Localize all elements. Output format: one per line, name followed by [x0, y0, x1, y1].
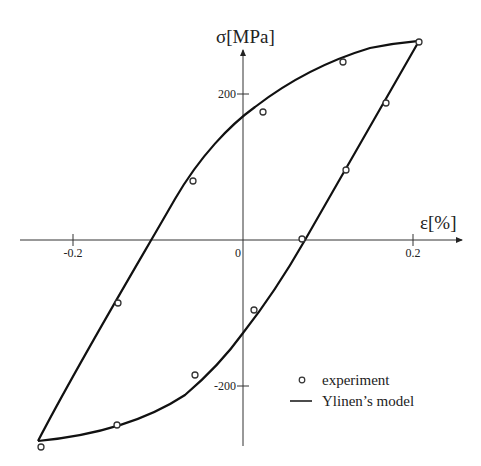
data-point: [192, 372, 198, 378]
data-point: [299, 236, 305, 242]
data-point: [38, 444, 44, 450]
y-tick-label: -200: [214, 379, 236, 393]
data-point: [114, 422, 120, 428]
data-point: [416, 39, 422, 45]
legend-marker-circle: [299, 377, 305, 383]
data-point: [340, 59, 346, 65]
data-point: [251, 307, 257, 313]
hysteresis-chart: -0.2 0 0.2 200 -200 σ[MPa] ε[%] experime…: [0, 0, 481, 466]
data-point: [190, 178, 196, 184]
legend: experiment Ylinen’s model: [290, 372, 414, 409]
data-point: [383, 100, 389, 106]
data-point: [115, 300, 121, 306]
x-tick-label: 0: [235, 246, 241, 260]
x-tick-label: 0.2: [406, 246, 421, 260]
x-tick-label: -0.2: [64, 246, 83, 260]
legend-experiment-label: experiment: [322, 372, 390, 388]
legend-model-label: Ylinen’s model: [322, 393, 414, 409]
x-axis-label: ε[%]: [420, 212, 456, 233]
data-point: [260, 109, 266, 115]
y-axis-label: σ[MPa]: [216, 26, 275, 47]
y-tick-label: 200: [218, 87, 236, 101]
data-point: [343, 167, 349, 173]
